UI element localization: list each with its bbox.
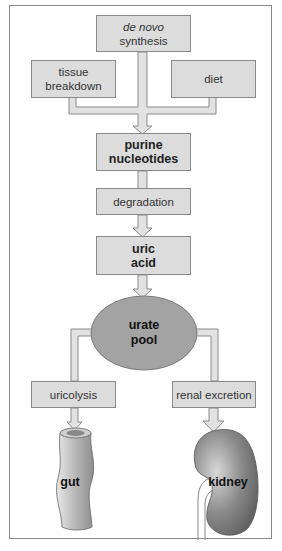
synthesis-label: synthesis: [120, 34, 168, 48]
node-diet: diet: [171, 60, 256, 98]
nucleotides-label: nucleotides: [109, 152, 178, 166]
node-urate-pool: urate pool: [104, 318, 184, 348]
gut-label: gut: [58, 475, 82, 489]
diet-label: diet: [204, 72, 223, 86]
node-uric-acid: uric acid: [96, 236, 191, 275]
node-tissue-breakdown: tissue breakdown: [31, 60, 116, 98]
acid-label: acid: [131, 256, 156, 270]
node-renal-excretion: renal excretion: [172, 381, 256, 408]
degradation-label: degradation: [113, 195, 174, 209]
urate-label: urate: [104, 318, 184, 333]
breakdown-label: breakdown: [45, 79, 101, 93]
de-novo-label: de novo: [123, 20, 164, 34]
node-purine-nucleotides: purine nucleotides: [96, 133, 191, 171]
node-de-novo-synthesis: de novo synthesis: [96, 15, 191, 52]
purine-label: purine: [124, 138, 162, 152]
uric-label: uric: [132, 242, 155, 256]
pool-label: pool: [104, 333, 184, 348]
renal-excretion-label: renal excretion: [176, 388, 251, 402]
kidney-label: kidney: [206, 475, 250, 489]
node-uricolysis: uricolysis: [31, 381, 116, 408]
uricolysis-label: uricolysis: [50, 388, 97, 402]
tissue-label: tissue: [58, 65, 88, 79]
node-degradation: degradation: [96, 188, 191, 215]
